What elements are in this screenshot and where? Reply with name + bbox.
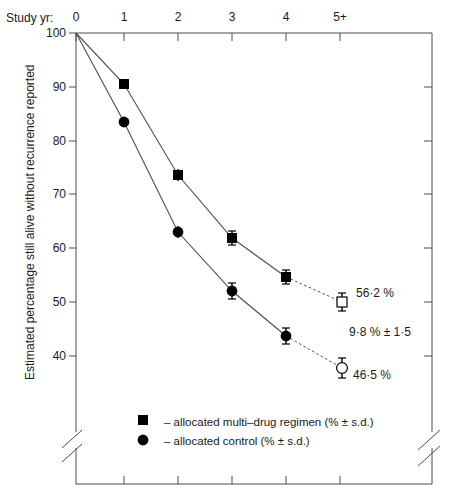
marker-multi-drug-yr3 [227,233,237,243]
axis-break-right-slash-1 [418,430,440,450]
marker-multi-drug-yr1 [119,79,129,89]
y-axis-ticks-right [424,87,432,356]
legend [138,415,149,445]
x-axis-ticks-top [76,33,340,41]
series-control-error-caps [228,283,346,378]
legend-marker-circle-icon [138,435,149,446]
axis-break-left-slash-2 [62,444,82,462]
marker-multi-drug-yr2 [173,170,183,180]
series-multi-drug-error-caps [228,231,346,311]
series-control-dashed-extension [286,336,342,368]
series-control-error-bars [178,226,342,378]
y-axis-ticks-left [69,33,76,356]
series-multi-drug-line [76,33,286,277]
marker-multi-drug-yr5plus-open [337,297,347,307]
axis-break-marks [62,430,440,466]
series-control-line [76,33,286,336]
marker-control-yr3 [227,286,238,297]
axis-frame [76,33,432,484]
series-multi-drug-dashed-extension [286,277,342,302]
x-axis-ticks-bottom [124,476,340,484]
marker-multi-drug-yr4 [281,272,291,282]
chart-figure: Study yr: 0 1 2 3 4 5+ 100 90 80 70 60 5… [0,0,450,499]
axis-break-right-slash-2 [418,446,440,466]
marker-control-yr5plus-open [337,363,348,374]
axis-break-left-slash-1 [62,430,82,448]
marker-control-yr2 [173,227,184,238]
chart-plot-area [0,0,450,499]
marker-control-yr4 [281,331,292,342]
series-allocated-control [76,33,347,378]
series-multi-drug-error-bars [178,169,342,311]
legend-marker-square-icon [138,415,148,425]
marker-control-yr1 [119,117,130,128]
